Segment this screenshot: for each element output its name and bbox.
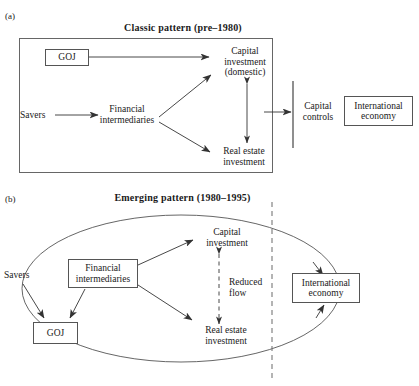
node-real-estate-investment-b: Real estate investment [193,325,259,346]
figure-container: (a) Classic pattern (pre–1980) [0,0,419,386]
node-international-economy-a: International economy [344,96,413,126]
node-capital-controls-a: Capital controls [296,101,340,122]
edge-b-fi-to-capital-investment [138,240,193,265]
edge-fi-to-real-estate-investment [159,122,210,152]
panel-b-title: Emerging pattern (1980–1995) [100,193,265,204]
node-real-estate-investment-a: Real estate investment [211,146,277,167]
node-financial-intermediaries-a: Financial intermediaries [92,104,162,125]
node-international-economy-b: International economy [292,273,360,303]
node-financial-intermediaries-b: Financial intermediaries [68,259,138,288]
edge-b-fi-to-real-estate-investment [138,285,192,320]
panel-b-label: (b) [5,194,16,205]
edge-fi-to-capital-investment [159,75,211,117]
node-savers-b: Savers [4,270,40,281]
node-goj-b: GOJ [33,322,78,344]
node-goj-a: GOJ [45,49,89,66]
panel-a-title: Classic pattern (pre–1980) [103,23,263,34]
node-capital-investment-b: Capital investment [194,227,260,248]
label-reduced-flow: Reduced flow [229,277,273,298]
node-capital-investment-a: Capital investment (domestic) [212,46,278,78]
edge-loop-into-international-bottom [316,305,324,318]
node-savers-a: Savers [20,110,56,121]
edge-b-savers-to-goj [23,284,44,318]
panel-a-label: (a) [5,11,15,22]
edge-b-fi-to-goj [70,289,85,318]
